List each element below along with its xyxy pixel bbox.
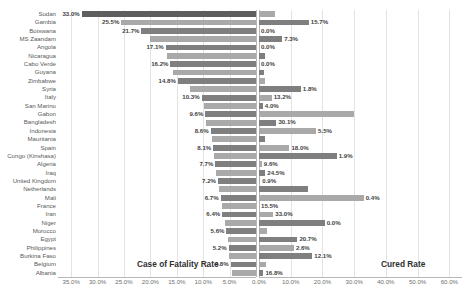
chart-row: Zimbabwe14.8%: [0, 77, 466, 85]
fatality-bar: [218, 178, 256, 184]
cured-value-label: 0.0%: [261, 43, 275, 51]
chart-row: United Kingdom7.2%0.9%: [0, 177, 466, 185]
cured-bar-cell: 1.8%: [259, 85, 462, 93]
category-label: Mali: [0, 194, 56, 202]
fatality-bar-cell: [58, 68, 256, 76]
cured-bar-cell: [259, 135, 462, 143]
right-tick-label: 50.0%: [409, 278, 426, 285]
fatality-value-label: 7.7%: [199, 160, 213, 168]
fatality-value-label: 9.6%: [189, 110, 203, 118]
fatality-axis-title: Case of Fatality Rate: [137, 259, 219, 269]
cured-bar: [259, 178, 260, 184]
cured-value-label: 0.4%: [366, 194, 380, 202]
fatality-bar-cell: 8.6%: [58, 127, 256, 135]
category-label: Mauritania: [0, 135, 56, 143]
cured-bar-cell: 15.7%: [259, 18, 462, 26]
fatality-bar-cell: [58, 102, 256, 110]
fatality-bar: [190, 86, 256, 92]
fatality-bar: [178, 78, 256, 84]
cured-bar: [259, 270, 263, 276]
fatality-bar: [214, 153, 256, 159]
left-tick-label: 25.0%: [115, 278, 132, 285]
cured-value-label: 20.7%: [299, 235, 316, 243]
fatality-bar-cell: 14.8%: [58, 77, 256, 85]
chart-rows: Sudan33.0%Gambia25.5%15.7%Botswana21.7%0…: [0, 10, 466, 277]
right-tick-label: 0.0%: [252, 278, 266, 285]
cured-bar-cell: 15.5%: [259, 202, 462, 210]
category-label: Sudan: [0, 10, 56, 18]
cured-bar-cell: [259, 10, 462, 18]
cured-axis-title: Cured Rate: [381, 259, 425, 269]
cured-bar: [259, 70, 264, 76]
category-label: Italy: [0, 93, 56, 101]
fatality-bar-cell: 33.0%: [58, 10, 256, 18]
category-label: Congo (Kinshasa): [0, 152, 56, 160]
cured-value-label: 12.1%: [314, 252, 331, 260]
cured-bar: [259, 237, 297, 243]
category-label: Angola: [0, 43, 56, 51]
category-label: France: [0, 202, 56, 210]
category-label: Nicaragua: [0, 52, 56, 60]
cured-value-label: 0.9%: [262, 177, 276, 185]
fatality-bar: [219, 186, 256, 192]
fatality-bar: [222, 203, 256, 209]
chart-row: Sudan33.0%: [0, 10, 466, 18]
chart-row: Egypt20.7%: [0, 235, 466, 243]
fatality-bar-cell: [58, 135, 256, 143]
fatality-bar-cell: [58, 169, 256, 177]
chart-row: Nicaragua: [0, 52, 466, 60]
cured-bar-cell: 30.1%: [259, 118, 462, 126]
cured-bar: [259, 103, 263, 109]
chart-row: Italy10.3%13.2%: [0, 93, 466, 101]
fatality-value-label: 7.2%: [202, 177, 216, 185]
cured-value-label: 0.0%: [261, 60, 275, 68]
cured-value-label: 0.0%: [327, 219, 341, 227]
fatality-bar: [229, 245, 256, 251]
fatality-bar-cell: 16.2%: [58, 60, 256, 68]
category-label: Spain: [0, 144, 56, 152]
cured-bar-cell: [259, 52, 462, 60]
fatality-bar: [232, 270, 256, 276]
fatality-bar: [170, 61, 256, 67]
chart-row: France15.5%: [0, 202, 466, 210]
right-tick-label: 20.0%: [314, 278, 331, 285]
fatality-bar: [221, 195, 256, 201]
category-label: Indonesia: [0, 127, 56, 135]
category-label: San Marino: [0, 102, 56, 110]
cured-bar-cell: 7.3%: [259, 35, 462, 43]
fatality-value-label: 5.2%: [213, 244, 227, 252]
fatality-bar: [141, 28, 256, 34]
cured-bar-cell: 5.5%: [259, 127, 462, 135]
fatality-bar: [228, 237, 257, 243]
chart-row: Iran6.4%33.0%: [0, 210, 466, 218]
cured-bar-cell: 33.0%: [259, 210, 462, 218]
chart-row: Gambia25.5%15.7%: [0, 18, 466, 26]
fatality-bar: [225, 220, 256, 226]
cured-value-label: 2.6%: [296, 244, 310, 252]
category-label: Iran: [0, 210, 56, 218]
cured-bar-cell: 0.9%: [259, 177, 462, 185]
category-label: Botswana: [0, 27, 56, 35]
category-label: United Kingdom: [0, 177, 56, 185]
cured-value-label: 7.3%: [284, 35, 298, 43]
cured-value-label: 5.5%: [318, 127, 332, 135]
cured-bar-cell: 0.4%: [259, 194, 462, 202]
fatality-bar: [213, 145, 256, 151]
cured-bar: [259, 136, 265, 142]
cured-bar: [259, 53, 265, 59]
fatality-value-label: 6.4%: [206, 210, 220, 218]
cured-bar: [259, 153, 337, 159]
chart-row: Spain8.1%18.0%: [0, 144, 466, 152]
chart-row: Bangladesh30.1%: [0, 118, 466, 126]
cured-bar-cell: 1.9%: [259, 152, 462, 160]
chart-row: Gabon9.6%: [0, 110, 466, 118]
left-tick-label: 35.0%: [63, 278, 80, 285]
fatality-bar-cell: [58, 85, 256, 93]
chart-row: Mali6.7%0.4%: [0, 194, 466, 202]
fatality-bar: [211, 128, 256, 134]
category-label: Netherlands: [0, 185, 56, 193]
fatality-value-label: 16.2%: [151, 60, 168, 68]
fatality-bar-cell: 25.5%: [58, 18, 256, 26]
cured-bar-cell: 9.6%: [259, 160, 462, 168]
cured-bar-cell: [259, 227, 462, 235]
